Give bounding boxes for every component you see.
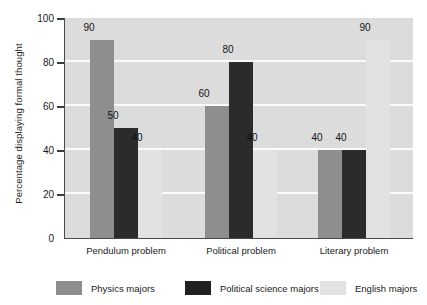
bar-literary-polisci bbox=[342, 150, 366, 238]
bar-political-polisci bbox=[229, 62, 253, 238]
x-category-label-literary: Literary problem bbox=[294, 245, 414, 256]
chart-legend: Physics majors Political science majors … bbox=[0, 278, 427, 300]
bar-label-political-polisci: 80 bbox=[216, 44, 240, 55]
y-tick-label-40: 40 bbox=[18, 145, 54, 156]
y-tick-label-60: 60 bbox=[18, 101, 54, 112]
bar-pendulum-polisci bbox=[114, 128, 138, 238]
legend-label-polisci: Political science majors bbox=[220, 283, 319, 294]
legend-item-physics: Physics majors bbox=[56, 278, 155, 298]
legend-swatch-english-icon bbox=[320, 281, 346, 295]
legend-item-english: English majors bbox=[320, 278, 417, 298]
legend-item-polisci: Political science majors bbox=[185, 278, 319, 298]
y-tick-label-100: 100 bbox=[18, 13, 54, 24]
y-axis-title: Percentage displaying formal thought bbox=[13, 9, 24, 239]
x-category-label-pendulum: Pendulum problem bbox=[66, 245, 186, 256]
bar-chart: Percentage displaying formal thought 100… bbox=[0, 0, 427, 305]
legend-label-english: English majors bbox=[355, 283, 417, 294]
bar-literary-physics bbox=[318, 150, 342, 238]
bar-label-political-english: 40 bbox=[240, 132, 264, 143]
bar-label-literary-polisci: 40 bbox=[329, 132, 353, 143]
bar-label-literary-physics: 40 bbox=[305, 132, 329, 143]
bar-label-political-physics: 60 bbox=[192, 88, 216, 99]
bar-label-pendulum-polisci: 50 bbox=[101, 110, 125, 121]
bar-label-pendulum-english: 40 bbox=[125, 132, 149, 143]
bar-political-english bbox=[253, 150, 277, 238]
bar-pendulum-english bbox=[138, 150, 162, 238]
y-tick-label-20: 20 bbox=[18, 189, 54, 200]
legend-label-physics: Physics majors bbox=[91, 283, 155, 294]
x-category-label-political: Political problem bbox=[181, 245, 301, 256]
bar-pendulum-physics bbox=[90, 40, 114, 238]
bar-label-pendulum-physics: 90 bbox=[77, 22, 101, 33]
bar-literary-english bbox=[366, 40, 390, 238]
legend-swatch-physics-icon bbox=[56, 281, 82, 295]
bar-political-physics bbox=[205, 106, 229, 238]
legend-swatch-polisci-icon bbox=[185, 281, 211, 295]
y-tick-label-0: 0 bbox=[18, 233, 54, 244]
y-tick-label-80: 80 bbox=[18, 57, 54, 68]
bar-label-literary-english: 90 bbox=[353, 22, 377, 33]
